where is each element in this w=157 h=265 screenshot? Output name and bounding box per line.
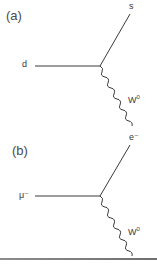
boson-superscript: 0	[137, 226, 140, 232]
panel-label-a: (a)	[6, 9, 22, 22]
incoming-particle-label: μ⁻	[19, 191, 29, 200]
boson-base: W	[128, 95, 137, 105]
bottom-divider	[0, 258, 157, 260]
feynman-diagram-a: (a) d s W0	[0, 0, 157, 130]
boson-superscript: 0	[137, 94, 140, 100]
outgoing-fermion-line	[100, 145, 130, 196]
boson-label: W0	[128, 226, 140, 237]
outgoing-particle-label: e⁻	[129, 133, 139, 142]
outgoing-particle-label: s	[129, 2, 134, 11]
incoming-particle-label: d	[22, 60, 27, 69]
feynman-diagram-b: (b) μ⁻ e⁻ W0	[0, 130, 157, 258]
panel-label-b: (b)	[12, 144, 28, 157]
outgoing-fermion-line	[100, 14, 130, 66]
boson-base: W	[128, 227, 137, 237]
boson-label: W0	[128, 94, 140, 105]
